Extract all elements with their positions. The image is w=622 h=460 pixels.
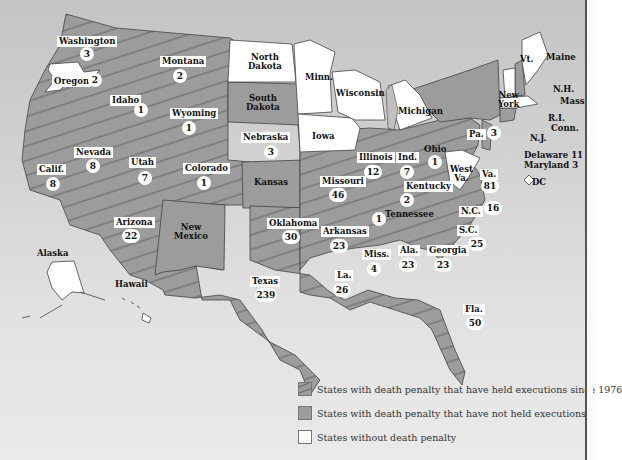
label-wisconsin: Wisconsin	[336, 89, 385, 98]
count-arizona: 22	[122, 229, 140, 243]
label-maine: Maine	[546, 53, 576, 62]
count-oklahoma: 30	[282, 230, 300, 244]
label-nh: N.H.	[553, 85, 574, 94]
label-south-dakota-line2: Dakota	[246, 102, 280, 112]
label-la: La.	[335, 270, 353, 281]
label-washington: Washington	[57, 36, 117, 47]
count-la: 26	[333, 283, 351, 297]
label-new-york: NewYork	[498, 91, 519, 109]
label-maryland: Maryland 3	[524, 161, 578, 170]
count-nevada: 8	[86, 159, 100, 173]
legend-label-no-penalty: States without death penalty	[317, 432, 456, 443]
legend-label-not-executed: States with death penalty that have not …	[317, 408, 586, 419]
count-nc: 16	[484, 201, 502, 215]
legend-item-no-penalty: States without death penalty	[298, 430, 456, 444]
state-hawaii	[142, 313, 151, 323]
gray-swatch-icon	[298, 406, 312, 420]
label-texas: Texas	[250, 276, 280, 287]
count-idaho: 1	[134, 103, 148, 117]
legend-item-executed: States with death penalty that have held…	[298, 382, 622, 396]
count-illinois: 12	[364, 165, 382, 179]
label-arkansas: Arkansas	[321, 226, 369, 237]
label-ohio: Ohio	[424, 145, 446, 154]
label-south-dakota: SouthDakota	[246, 94, 280, 112]
label-west-va-line2: Va.	[454, 173, 468, 183]
label-west-va: WestVa.	[450, 165, 473, 183]
label-georgia: Georgia	[427, 245, 469, 256]
label-ind: Ind.	[396, 152, 419, 163]
label-vt: Vt.	[520, 55, 533, 64]
label-dc: DC	[532, 178, 546, 187]
label-missouri: Missouri	[320, 176, 366, 187]
label-tennessee: Tennessee	[385, 210, 434, 219]
label-delaware: Delaware 11	[524, 151, 583, 160]
label-illinois: Illinois	[357, 152, 395, 163]
count-sc: 25	[468, 237, 486, 251]
label-nj: N.J.	[530, 134, 547, 143]
count-miss: 4	[367, 262, 381, 276]
count-kentucky: 2	[400, 193, 414, 207]
label-new-mexico: NewMexico	[174, 223, 208, 241]
label-oregon: Oregon	[52, 76, 91, 87]
label-calif: Calif.	[37, 164, 66, 175]
count-arkansas: 23	[330, 239, 348, 253]
hatched-swatch-icon	[298, 382, 312, 396]
white-swatch-icon	[298, 430, 312, 444]
count-nebraska: 3	[264, 145, 278, 159]
count-missouri: 46	[329, 188, 347, 202]
label-iowa: Iowa	[312, 132, 334, 141]
state-connecticut	[500, 108, 516, 122]
legend-item-not-executed: States with death penalty that have not …	[298, 406, 586, 420]
label-minn: Minn.	[305, 73, 333, 82]
label-hawaii: Hawaii	[115, 280, 148, 289]
label-utah: Utah	[129, 157, 156, 168]
label-north-dakota-line2: Dakota	[248, 61, 282, 71]
count-wyoming: 1	[182, 121, 196, 135]
label-wyoming: Wyoming	[170, 108, 218, 119]
label-new-york-line2: York	[498, 99, 519, 109]
count-texas: 239	[255, 288, 277, 302]
count-pa: 3	[487, 126, 501, 140]
count-oregon: 2	[88, 73, 102, 87]
count-ala: 23	[399, 258, 417, 272]
count-colorado: 1	[197, 176, 211, 190]
label-nevada: Nevada	[74, 147, 113, 158]
label-alaska: Alaska	[37, 249, 69, 258]
label-oklahoma: Oklahoma	[267, 218, 319, 229]
count-ohio: 1	[428, 155, 442, 169]
label-miss: Miss.	[362, 249, 391, 260]
count-calif: 8	[46, 177, 60, 191]
state-alaska-body	[47, 261, 84, 300]
label-fla: Fla.	[463, 304, 485, 315]
label-mass: Mass.	[560, 97, 587, 106]
count-montana: 2	[173, 69, 187, 83]
count-fla: 50	[466, 316, 484, 330]
label-sc: S.C.	[457, 225, 479, 236]
count-utah: 7	[138, 171, 152, 185]
label-pa: Pa.	[467, 129, 486, 140]
label-michigan: Michigan	[398, 107, 443, 116]
label-nc: N.C.	[459, 206, 483, 217]
count-va: 81	[481, 179, 499, 193]
count-tennessee: 1	[372, 212, 386, 226]
count-washington: 3	[80, 47, 94, 61]
hawaii-islands	[122, 298, 140, 308]
label-kansas: Kansas	[254, 178, 288, 187]
label-montana: Montana	[160, 56, 206, 67]
label-ri: R.I.	[548, 114, 565, 123]
label-nebraska: Nebraska	[241, 132, 290, 143]
label-north-dakota: NorthDakota	[248, 53, 282, 71]
label-colorado: Colorado	[183, 163, 230, 174]
label-conn: Conn.	[551, 124, 579, 133]
legend-label-executed: States with death penalty that have held…	[317, 384, 622, 395]
label-arizona: Arizona	[114, 217, 155, 228]
label-new-mexico-line2: Mexico	[174, 231, 208, 241]
label-kentucky: Kentucky	[404, 181, 453, 192]
label-ala: Ala.	[398, 245, 420, 256]
right-margin	[587, 0, 593, 460]
count-georgia: 23	[434, 258, 452, 272]
count-ind: 7	[400, 165, 414, 179]
